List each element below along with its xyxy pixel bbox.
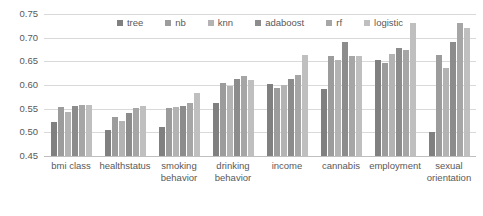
x-axis-tick-label: income — [260, 160, 314, 183]
bar — [133, 108, 139, 156]
bar — [140, 106, 146, 156]
legend-item[interactable]: adaboost — [255, 18, 304, 28]
bar-group — [152, 14, 206, 156]
bar-group — [44, 14, 98, 156]
bar-group — [260, 14, 314, 156]
legend-swatch-icon — [208, 20, 214, 26]
bar — [410, 23, 416, 156]
bar — [159, 127, 165, 156]
y-axis-tick-label: 0.60 — [2, 80, 38, 90]
bar — [213, 103, 219, 156]
legend-item[interactable]: nb — [165, 18, 186, 28]
bar — [403, 50, 409, 156]
bar — [436, 55, 442, 156]
x-axis-tick-label: employment — [368, 160, 422, 183]
x-axis-tick-label: cannabis — [314, 160, 368, 183]
legend-item[interactable]: logistic — [364, 18, 403, 28]
bar — [79, 105, 85, 156]
bar-groups — [44, 14, 476, 156]
bar — [166, 108, 172, 156]
bar — [65, 112, 71, 156]
bar — [173, 107, 179, 156]
bar — [450, 42, 456, 156]
bar-group — [98, 14, 152, 156]
bar — [281, 85, 287, 156]
bar — [443, 68, 449, 156]
legend-swatch-icon — [326, 20, 332, 26]
bar — [328, 56, 334, 156]
legend-label: logistic — [374, 18, 403, 28]
bar-group — [314, 14, 368, 156]
bar-group — [368, 14, 422, 156]
bar-chart: 0.750.700.650.600.550.500.45 treenbknnad… — [0, 0, 483, 216]
x-axis-categories: bmi classhealthstatussmoking behaviordri… — [44, 160, 476, 183]
bar — [429, 132, 435, 156]
bar — [356, 56, 362, 156]
y-axis-tick-label: 0.75 — [2, 9, 38, 19]
bar — [267, 84, 273, 156]
legend-label: knn — [218, 18, 233, 28]
bar — [194, 93, 200, 156]
x-axis-tick-label: sexual orientation — [422, 160, 476, 183]
bar — [288, 79, 294, 156]
bar — [234, 79, 240, 156]
bar — [112, 117, 118, 156]
x-axis-tick-label: drinking behavior — [206, 160, 260, 183]
x-axis-tick-label: bmi class — [44, 160, 98, 183]
bar — [86, 105, 92, 156]
y-axis-tick-label: 0.50 — [2, 127, 38, 137]
legend-item[interactable]: tree — [117, 18, 143, 28]
legend-item[interactable]: knn — [208, 18, 233, 28]
legend-swatch-icon — [117, 20, 123, 26]
plot-area — [44, 14, 476, 156]
bar — [457, 23, 463, 156]
bar — [302, 55, 308, 156]
bar — [58, 107, 64, 156]
legend-swatch-icon — [165, 20, 171, 26]
bar — [119, 121, 125, 157]
y-axis-tick-label: 0.65 — [2, 56, 38, 66]
legend-label: adaboost — [265, 18, 304, 28]
legend-label: nb — [175, 18, 186, 28]
bar — [396, 48, 402, 156]
bar — [105, 130, 111, 156]
bar — [220, 83, 226, 156]
y-axis-tick-label: 0.45 — [2, 151, 38, 161]
gridline — [44, 156, 476, 157]
bar — [227, 86, 233, 156]
bar-group — [206, 14, 260, 156]
bar — [274, 88, 280, 156]
bar — [342, 42, 348, 156]
legend-label: rf — [336, 18, 342, 28]
y-axis-tick-label: 0.55 — [2, 104, 38, 114]
bar — [389, 54, 395, 156]
bar-group — [422, 14, 476, 156]
bar — [187, 103, 193, 156]
bar — [126, 113, 132, 156]
bar — [375, 60, 381, 156]
legend-label: tree — [127, 18, 143, 28]
y-axis-tick-label: 0.70 — [2, 33, 38, 43]
chart-legend: treenbknnadaboostrflogistic — [44, 18, 476, 28]
bar — [335, 60, 341, 156]
bar — [295, 75, 301, 156]
x-axis-tick-label: healthstatus — [98, 160, 152, 183]
bar — [464, 28, 470, 156]
bar — [382, 63, 388, 156]
bar — [72, 106, 78, 156]
bar — [349, 56, 355, 156]
bar — [51, 122, 57, 156]
x-axis-tick-label: smoking behavior — [152, 160, 206, 183]
legend-item[interactable]: rf — [326, 18, 342, 28]
bar — [248, 80, 254, 156]
legend-swatch-icon — [364, 20, 370, 26]
bar — [180, 106, 186, 156]
bar — [241, 76, 247, 156]
legend-swatch-icon — [255, 20, 261, 26]
bar — [321, 89, 327, 156]
